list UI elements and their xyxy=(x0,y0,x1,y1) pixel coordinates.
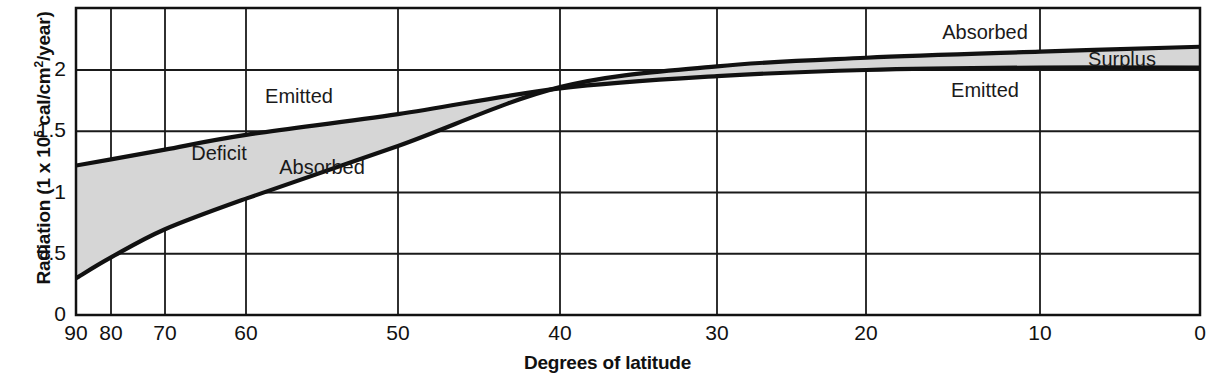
annotation-deficit: Deficit xyxy=(191,142,247,164)
annotation-emitted: Emitted xyxy=(265,85,333,107)
annotation-absorbed: Absorbed xyxy=(942,21,1028,43)
x-tick-label: 50 xyxy=(368,322,428,343)
y-tick-label: 1 xyxy=(4,181,66,202)
x-tick-label: 70 xyxy=(135,322,195,343)
y-tick-label: 0.5 xyxy=(4,242,66,263)
x-tick-label: 0 xyxy=(1170,322,1215,343)
x-tick-label: 60 xyxy=(216,322,276,343)
y-tick-label: 1.5 xyxy=(4,119,66,140)
y-tick-label: 0 xyxy=(4,303,66,324)
x-tick-label: 20 xyxy=(836,322,896,343)
x-tick-label: 10 xyxy=(1010,322,1070,343)
x-tick-label: 80 xyxy=(81,322,141,343)
x-tick-label: 40 xyxy=(530,322,590,343)
annotation-absorbed: Absorbed xyxy=(279,156,365,178)
annotation-surplus: Surplus xyxy=(1088,48,1156,70)
chart-figure: Radiation (1 x 105 cal/cm2/year) Degrees… xyxy=(0,0,1215,390)
annotation-emitted: Emitted xyxy=(951,79,1019,101)
y-tick-label: 2 xyxy=(4,58,66,79)
x-tick-label: 30 xyxy=(687,322,747,343)
